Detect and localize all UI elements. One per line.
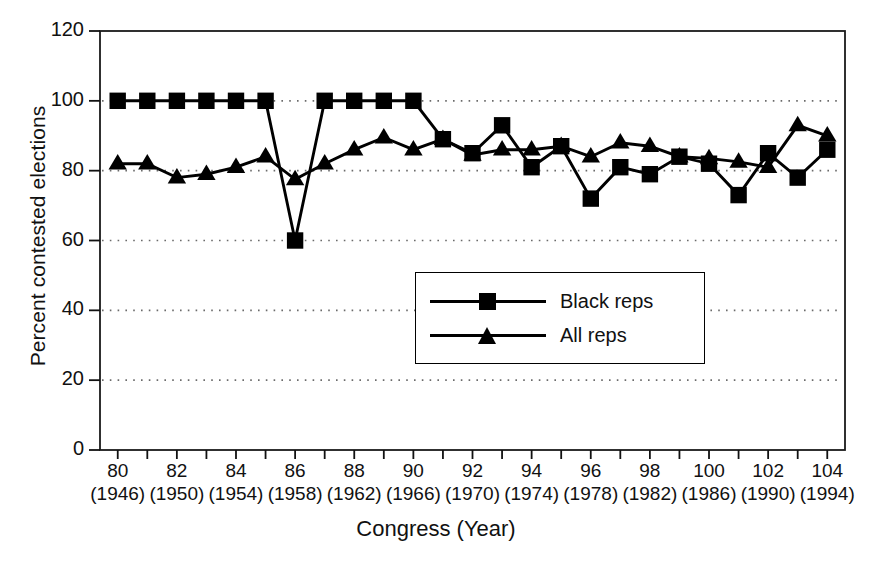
marker-black-reps-82 [169, 93, 185, 109]
x-axis-title: Congress (Year) [0, 516, 872, 542]
marker-black-reps-85 [257, 93, 273, 109]
marker-black-reps-84 [228, 93, 244, 109]
legend-entry-black-reps: Black reps [430, 284, 690, 318]
marker-all-reps-89 [375, 128, 393, 143]
legend-entry-all-reps: All reps [430, 318, 690, 352]
triangle-marker-icon [430, 325, 546, 345]
marker-black-reps-94 [523, 159, 539, 175]
marker-black-reps-80 [110, 93, 126, 109]
marker-black-reps-98 [642, 166, 658, 182]
square-marker-icon [430, 291, 546, 311]
marker-black-reps-104 [819, 142, 835, 158]
marker-black-reps-89 [376, 93, 392, 109]
marker-all-reps-81 [138, 154, 156, 170]
marker-black-reps-97 [612, 159, 628, 175]
marker-all-reps-80 [109, 154, 127, 170]
marker-black-reps-86 [287, 232, 303, 248]
marker-all-reps-93 [493, 140, 511, 156]
legend-label-all-reps: All reps [560, 324, 627, 347]
marker-all-reps-85 [256, 147, 274, 163]
marker-black-reps-103 [790, 169, 806, 185]
chart-legend: Black reps All reps [415, 272, 705, 364]
marker-black-reps-101 [730, 187, 746, 203]
marker-black-reps-93 [494, 117, 510, 133]
marker-black-reps-83 [198, 93, 214, 109]
marker-all-reps-103 [789, 116, 807, 132]
marker-black-reps-87 [317, 93, 333, 109]
marker-black-reps-88 [346, 93, 362, 109]
chart-figure: Percent contested elections 020406080100… [0, 0, 872, 562]
marker-black-reps-96 [583, 190, 599, 206]
marker-black-reps-81 [139, 93, 155, 109]
marker-all-reps-97 [611, 133, 629, 149]
marker-black-reps-90 [405, 93, 421, 109]
legend-label-black-reps: Black reps [560, 290, 653, 313]
